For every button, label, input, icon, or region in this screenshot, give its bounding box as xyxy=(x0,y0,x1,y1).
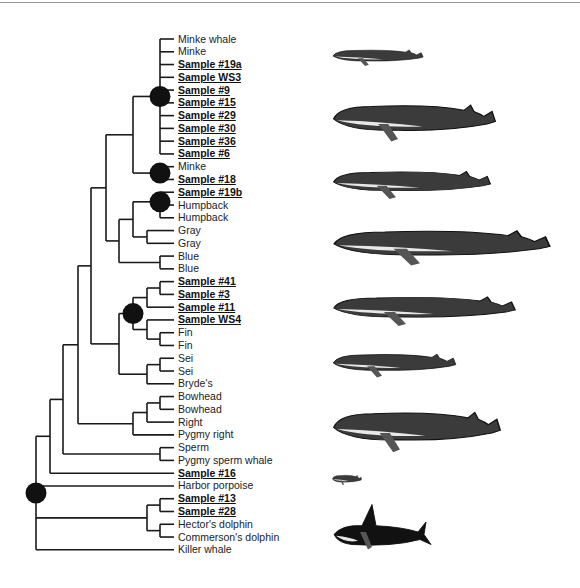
species-label: Pygmy sperm whale xyxy=(178,454,273,466)
sample-label: Sample #30 xyxy=(178,122,236,134)
species-label: Bryde's xyxy=(178,377,213,389)
sample-label: Sample WS4 xyxy=(178,313,241,325)
bootstrap-node-dot xyxy=(150,163,171,184)
species-label: Minke whale xyxy=(178,33,236,45)
fin-whale-illustration xyxy=(332,288,517,328)
blue-whale-illustration xyxy=(332,220,552,268)
sample-label: Sample #36 xyxy=(178,135,236,147)
sample-label: Sample #3 xyxy=(178,288,230,300)
species-label: Right xyxy=(178,416,203,428)
gray-whale-illustration xyxy=(332,163,492,201)
species-label: Harbor porpoise xyxy=(178,479,253,491)
species-label: Sperm xyxy=(178,441,209,453)
sample-label: Sample #9 xyxy=(178,84,230,96)
bootstrap-node-dot xyxy=(26,483,47,504)
species-label: Killer whale xyxy=(178,543,232,555)
species-label: Bowhead xyxy=(178,403,222,415)
sample-label: Sample #19a xyxy=(178,58,242,70)
sample-label: Sample #11 xyxy=(178,301,235,313)
species-label: Minke xyxy=(178,160,206,172)
sei-whale-illustration xyxy=(332,347,457,379)
sample-label: Sample #13 xyxy=(178,492,236,504)
species-label: Pygmy right xyxy=(178,428,233,440)
harbor-porpoise-illustration xyxy=(332,472,362,486)
sample-label: Sample #19b xyxy=(178,186,242,198)
species-label: Blue xyxy=(178,250,199,262)
minke-whale-illustration xyxy=(332,45,424,67)
species-label: Gray xyxy=(178,224,201,236)
bootstrap-node-dot xyxy=(150,86,171,107)
sample-label: Sample #28 xyxy=(178,505,236,517)
sample-label: Sample #6 xyxy=(178,147,230,159)
humpback-whale-illustration xyxy=(332,94,497,144)
sample-label: Sample #16 xyxy=(178,467,236,479)
killer-whale-illustration xyxy=(332,502,432,552)
species-label: Minke xyxy=(178,45,206,57)
species-label: Blue xyxy=(178,262,199,274)
species-label: Fin xyxy=(178,326,193,338)
sample-label: Sample #18 xyxy=(178,173,236,185)
species-label: Humpback xyxy=(178,199,228,211)
species-label: Sei xyxy=(178,365,193,377)
species-label: Sei xyxy=(178,352,193,364)
right-whale-illustration xyxy=(332,400,502,455)
species-label: Hector's dolphin xyxy=(178,518,253,530)
bootstrap-node-dot xyxy=(123,303,144,324)
bootstrap-node-dot xyxy=(150,191,171,212)
species-label: Humpback xyxy=(178,211,228,223)
sample-label: Sample #41 xyxy=(178,275,236,287)
sample-label: Sample #29 xyxy=(178,109,236,121)
sample-label: Sample #15 xyxy=(178,96,236,108)
species-label: Gray xyxy=(178,237,201,249)
species-label: Commerson's dolphin xyxy=(178,531,279,543)
species-label: Bowhead xyxy=(178,390,222,402)
sample-label: Sample WS3 xyxy=(178,71,241,83)
species-label: Fin xyxy=(178,339,193,351)
